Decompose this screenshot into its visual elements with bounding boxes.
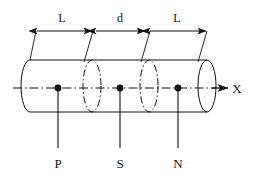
node-label-n: N <box>173 156 183 171</box>
rod-diagram-svg: L d L X <box>0 0 257 177</box>
node-dot-p <box>55 85 62 92</box>
axis-group: X <box>13 81 242 96</box>
node-dot-s <box>117 85 124 92</box>
dimension-label-middle-span: d <box>117 11 123 25</box>
cross-section-ellipse-1 <box>83 60 101 112</box>
node-leader-lines <box>58 88 178 148</box>
cross-section-ellipse-2 <box>140 60 158 112</box>
cylinder-right-cap-ellipse <box>198 60 216 112</box>
axis-label-x: X <box>232 81 242 96</box>
dimension-extension-lines <box>30 31 207 62</box>
figure-canvas: L d L X <box>0 0 257 177</box>
dimension-label-right-span: L <box>173 11 180 25</box>
extension-line-left <box>30 31 36 60</box>
cylinder-left-cap-arc <box>21 60 30 112</box>
dimension-label-left-span: L <box>58 11 65 25</box>
dimension-labels: L d L <box>58 11 180 25</box>
extension-line-right <box>198 31 207 62</box>
extension-line-mid1 <box>84 31 93 62</box>
extension-line-mid2 <box>141 31 150 62</box>
node-dot-n <box>175 85 182 92</box>
node-label-p: P <box>54 156 61 171</box>
node-labels: P S N <box>54 156 183 171</box>
node-label-s: S <box>116 156 123 171</box>
